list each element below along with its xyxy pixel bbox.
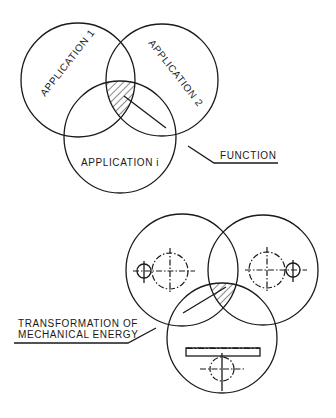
application-2-label: APPLICATION 2 <box>146 37 205 108</box>
transformation-label-line2: MECHANICAL ENERGY <box>18 329 138 340</box>
application-2-circle <box>106 24 218 136</box>
right-gear-pair-icon <box>245 247 307 293</box>
gear-pair-left-circle <box>126 214 238 326</box>
transformation-label-line1: TRANSFORMATION OF <box>18 318 138 329</box>
venn-diagram-figure: APPLICATION 1 APPLICATION 2 APPLICATION … <box>0 0 336 418</box>
function-leader-inner <box>124 96 166 128</box>
bottom-venn-diagram: TRANSFORMATION OF MECHANICAL ENERGY <box>14 214 318 393</box>
gear-pair-right-circle <box>208 215 318 325</box>
application-i-label: APPLICATION i <box>81 157 159 168</box>
function-label: FUNCTION <box>220 150 276 161</box>
application-1-label: APPLICATION 1 <box>38 27 97 98</box>
rack-and-pinion-icon <box>186 348 260 391</box>
top-venn-diagram: APPLICATION 1 APPLICATION 2 APPLICATION … <box>21 23 278 193</box>
left-gear-pair-icon <box>133 248 195 294</box>
